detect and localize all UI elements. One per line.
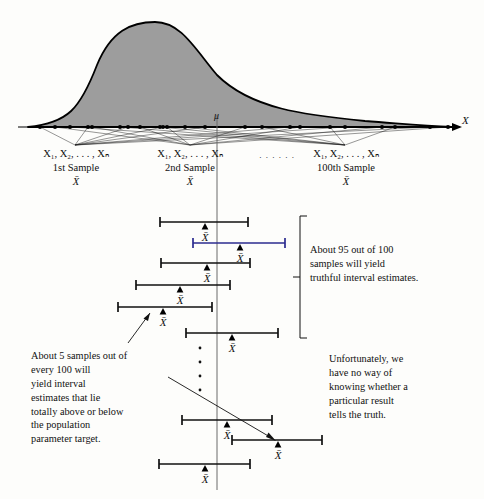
sample-100-mean: X̄ xyxy=(288,176,404,188)
label-layer: X μ X₁, X₂, . . . , Xₙ 1st Sample X̄ X₁,… xyxy=(0,0,484,499)
annotation-5-percent: About 5 samples out of every 100 will yi… xyxy=(31,349,166,446)
mu-label: μ xyxy=(214,110,219,122)
x-axis-label: X xyxy=(462,114,469,127)
sample-100-variables: X₁, X₂, . . . , Xₙ xyxy=(288,148,404,160)
figure-canvas: X̄X̄X̄X̄X̄X̄X̄X̄X̄ X μ X₁, X₂, . . . , X… xyxy=(0,0,484,499)
sample-100-name: 100th Sample xyxy=(288,162,404,174)
sample-1-name: 1st Sample xyxy=(20,162,132,174)
sample-2-mean: X̄ xyxy=(134,176,246,188)
sample-1-variables: X₁, X₂, . . . , Xₙ xyxy=(20,148,132,160)
sample-2-variables: X₁, X₂, . . . , Xₙ xyxy=(134,148,246,160)
sample-2-name: 2nd Sample xyxy=(134,162,246,174)
sample-1-mean: X̄ xyxy=(20,176,132,188)
annotation-uncertainty: Unfortunately, we have no way of knowing… xyxy=(329,352,469,421)
annotation-95-percent: About 95 out of 100 samples will yield t… xyxy=(310,243,460,285)
